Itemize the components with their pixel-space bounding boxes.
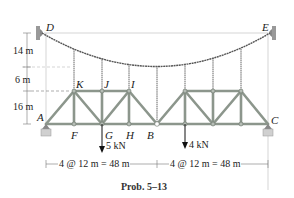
load-4kN-label: 4 kN	[189, 140, 209, 150]
load-4kN-arrow	[182, 124, 188, 149]
dim-6m: 6 m	[15, 75, 30, 85]
hangers	[74, 49, 241, 124]
dim-14m: 14 m	[13, 46, 33, 56]
figure-caption: Prob. 5–13	[121, 182, 167, 192]
label-D: D	[46, 22, 54, 33]
support-D	[36, 26, 43, 40]
label-C: C	[271, 115, 278, 126]
support-E	[269, 26, 276, 40]
cable	[42, 33, 270, 67]
label-H: H	[126, 130, 134, 141]
label-B: B	[147, 130, 154, 141]
label-J: J	[104, 79, 109, 90]
label-I: I	[131, 79, 135, 90]
truss-cable-diagram	[0, 0, 294, 198]
label-A: A	[37, 112, 44, 123]
dim-16m: 16 m	[13, 102, 33, 112]
load-5kN-label: 5 kN	[106, 141, 126, 151]
truss-left	[46, 91, 157, 124]
support-A	[41, 124, 51, 136]
label-K: K	[76, 79, 83, 90]
dim-left-span: 4 @ 12 m = 48 m	[58, 159, 130, 169]
truss-right	[157, 91, 268, 124]
dim-right-span: 4 @ 12 m = 48 m	[169, 159, 241, 169]
label-E: E	[262, 22, 269, 33]
label-F: F	[71, 130, 78, 141]
